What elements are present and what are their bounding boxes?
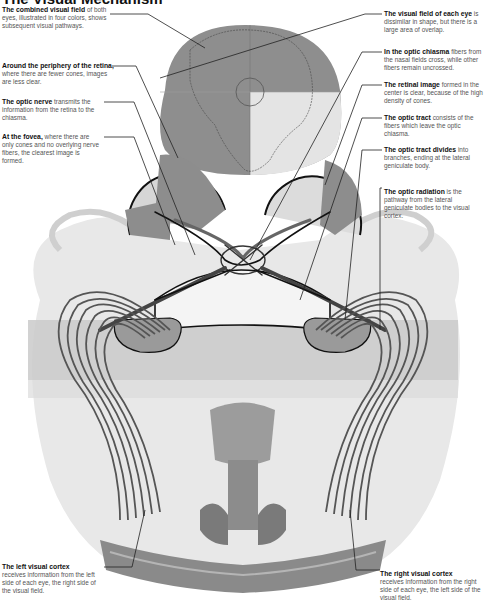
combined-visual-field (160, 25, 341, 175)
label-combined-visual-field: The combined visual field of both eyes, … (2, 6, 110, 30)
label-retinal-image: The retinal image formed in the center i… (384, 81, 484, 105)
label-optic-radiation: The optic radiation is the pathway from … (384, 188, 480, 220)
label-left-visual-cortex: The left visual cortex receives informat… (2, 563, 106, 595)
label-retina-periphery: Around the periphery of the retina, wher… (2, 62, 114, 86)
label-visual-field-each-eye: The visual field of each eye is dissimil… (384, 10, 486, 34)
label-optic-nerve: The optic nerve transmits the informatio… (2, 98, 110, 122)
label-optic-tract-divides: The optic tract divides into branches, e… (384, 146, 486, 170)
label-optic-chiasma: In the optic chiasma fibers from the nas… (384, 48, 484, 72)
label-optic-tract: The optic tract consists of the fibers w… (384, 114, 484, 138)
label-fovea: At the fovea, where there are only cones… (2, 133, 102, 165)
label-right-visual-cortex: The right visual cortex receives informa… (380, 570, 486, 602)
